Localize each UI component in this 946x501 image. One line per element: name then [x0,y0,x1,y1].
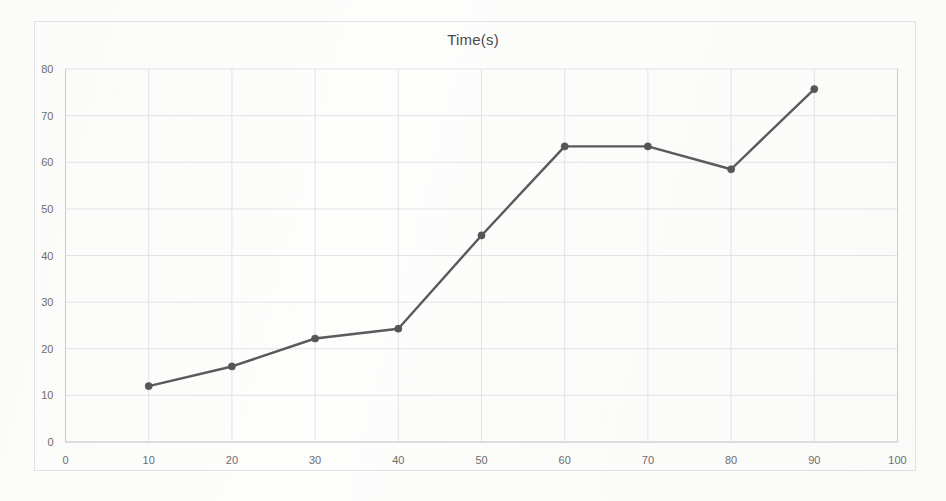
x-axis-tick-label: 90 [808,454,820,466]
x-axis-tick-label: 40 [392,454,404,466]
y-axis-tick-label: 80 [41,63,53,75]
data-point-marker [228,363,235,370]
data-point-marker [312,335,319,342]
x-axis-tick-label: 60 [559,454,571,466]
y-axis-tick-label: 30 [41,296,53,308]
data-point-marker [478,232,485,239]
data-point-marker [395,325,402,332]
y-axis-tick-label: 0 [47,436,53,448]
x-axis-tick-label: 70 [642,454,654,466]
data-point-marker [561,143,568,150]
line-chart-plot: 01020304050607080 0102030405060708090100 [0,0,946,501]
x-axis-tick-label: 10 [143,454,155,466]
y-axis-tick-label: 50 [41,203,53,215]
x-axis-tick-label: 80 [725,454,737,466]
x-axis-tick-label: 20 [226,454,238,466]
data-point-marker [145,382,152,389]
y-axis-tick-labels: 01020304050607080 [41,63,53,448]
y-axis-tick-label: 40 [41,250,53,262]
data-point-marker [728,166,735,173]
x-axis-tick-labels: 0102030405060708090100 [62,454,906,466]
y-axis-tick-label: 20 [41,343,53,355]
chart-page: Time(s) 01020304050607080 01020304050607… [0,0,946,501]
x-axis-tick-label: 30 [309,454,321,466]
x-axis-tick-label: 100 [888,454,906,466]
x-axis-tick-label: 0 [62,454,68,466]
y-axis-tick-label: 60 [41,156,53,168]
data-point-marker [811,85,818,92]
y-axis-tick-label: 70 [41,110,53,122]
x-axis-tick-label: 50 [475,454,487,466]
data-point-marker [644,143,651,150]
y-axis-tick-label: 10 [41,389,53,401]
